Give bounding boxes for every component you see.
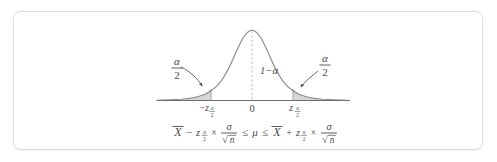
right-tail-two-label: 2 [322,66,328,78]
formula-left-operator: − [186,126,192,138]
right-tail-arrow [301,71,318,87]
formula-right-times: × [311,128,316,138]
formula-left-z-sub-den: 2 [203,136,206,142]
formula-left-numerator: σ [226,121,232,132]
axis-left-tick-sub-num: α [211,105,214,111]
axis-right-tick-sub-num: α [296,105,299,111]
formula-first-inequality: ≤ [242,126,248,138]
formula-right-z-sub-num: α [303,129,306,135]
formula-right-mean: X [272,125,281,139]
formula-right-radical: √ [322,134,328,145]
formula-left-denominator: n [230,135,235,145]
center-region-label: 1−α [260,65,278,76]
formula-right-z: z [295,127,300,138]
axis-left-tick-label: −z [199,103,209,113]
formula-left-z: z [195,127,200,138]
formula-right-z-sub-den: 2 [303,136,306,142]
left-tail-arrow [181,67,202,86]
normal-distribution-figure: α 2 α 2 1−α −z α 2 0 z α 2 X [0,0,497,162]
axis-center-tick-label: 0 [249,103,254,114]
formula-left-radical: √ [222,134,228,145]
right-tail-alpha-label: α [322,52,328,64]
formula-second-inequality: ≤ [262,126,268,138]
axis-left-tick-sub-den: 2 [211,112,214,118]
formula-left-z-sub-num: α [203,129,206,135]
figure-page: α 2 α 2 1−α −z α 2 0 z α 2 X [0,0,497,162]
formula-left-mean: X [173,125,182,139]
formula-left-times: × [211,128,216,138]
left-tail-alpha-label: α [174,55,180,67]
formula-parameter: μ [251,126,258,138]
formula-right-denominator: n [330,135,335,145]
axis-right-tick-label: z [288,103,293,113]
formula-right-operator: + [286,126,292,138]
left-tail-two-label: 2 [174,69,180,81]
axis-right-tick-sub-den: 2 [296,112,299,118]
formula-right-numerator: σ [326,121,332,132]
